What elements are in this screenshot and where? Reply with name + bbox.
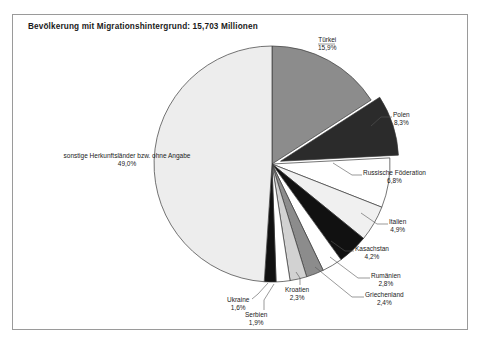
pie-label-italien-pct: 4,9% — [389, 226, 406, 234]
pie-chart: Türkei 15,9% Polen 8,3% Russische Födera… — [0, 0, 481, 348]
pie-label-kroatien: Kroatien 2,3% — [285, 286, 309, 303]
pie-label-kasachstan-pct: 4,2% — [355, 253, 389, 261]
pie-label-kroatien-pct: 2,3% — [285, 294, 309, 302]
leader-line-ukraine — [252, 283, 268, 299]
pie-label-russische-foederation-name: Russische Föderation — [363, 169, 426, 176]
pie-label-rumaenien-pct: 2,8% — [371, 280, 401, 288]
pie-label-polen: Polen 8,3% — [393, 111, 410, 128]
pie-label-rumaenien-name: Rumänien — [371, 272, 401, 279]
pie-label-sonstige: sonstige Herkunftsländer bzw. ohne Angab… — [62, 152, 192, 169]
pie-label-serbien: Serbien 1,9% — [245, 311, 267, 328]
pie-label-italien-name: Italien — [389, 218, 406, 225]
pie-label-tuerkei-name: Türkei — [318, 36, 336, 43]
pie-label-tuerkei: Türkei 15,9% — [318, 36, 336, 53]
pie-label-polen-name: Polen — [393, 111, 410, 118]
pie-label-serbien-pct: 1,9% — [245, 319, 267, 327]
pie-label-ukraine-name: Ukraine — [227, 296, 249, 303]
pie-label-griechenland-pct: 2,4% — [365, 299, 404, 307]
pie-label-polen-pct: 8,3% — [393, 119, 410, 127]
pie-label-griechenland-name: Griechenland — [365, 291, 404, 298]
pie-label-kasachstan-name: Kasachstan — [355, 245, 389, 252]
pie-label-ukraine: Ukraine 1,6% — [227, 296, 249, 313]
leader-line-serbien — [264, 284, 274, 310]
pie-label-kasachstan: Kasachstan 4,2% — [355, 245, 389, 262]
screenshot-root: Bevölkerung mit Migrationshintergrund: 1… — [0, 0, 481, 348]
pie-label-italien: Italien 4,9% — [389, 218, 406, 235]
pie-label-kroatien-name: Kroatien — [285, 286, 309, 293]
pie-label-rumaenien: Rumänien 2,8% — [371, 272, 401, 289]
pie-label-ukraine-pct: 1,6% — [227, 304, 249, 312]
pie-label-russische-foederation: Russische Föderation 6,8% — [363, 169, 426, 186]
leader-line-griechenland — [315, 267, 364, 297]
pie-label-sonstige-pct: 49,0% — [62, 160, 192, 168]
pie-label-griechenland: Griechenland 2,4% — [365, 291, 404, 308]
pie-label-russische-foederation-pct: 6,8% — [363, 177, 426, 185]
pie-label-tuerkei-pct: 15,9% — [318, 44, 336, 52]
pie-label-sonstige-name: sonstige Herkunftsländer bzw. ohne Angab… — [64, 152, 191, 159]
